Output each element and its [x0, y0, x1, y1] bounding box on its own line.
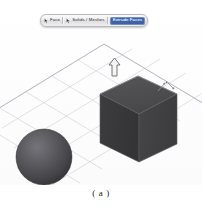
toolbar-item-face-label: Face — [50, 18, 60, 22]
3d-viewport[interactable]: Face Solids / Meshes Extrude Faces — [0, 2, 202, 185]
figure-container: Face Solids / Meshes Extrude Faces ( a ) — [0, 0, 202, 210]
toolbar-item-solids-meshes[interactable]: Solids / Meshes — [64, 15, 107, 26]
object-sphere[interactable] — [16, 129, 72, 185]
figure-caption: ( a ) — [0, 188, 202, 198]
sphere-body — [16, 129, 72, 185]
cursor-face-icon — [44, 18, 49, 24]
axis-marker-icon — [156, 80, 178, 94]
extrude-arrow-icon[interactable] — [107, 57, 122, 77]
cursor-solid-icon — [66, 18, 71, 24]
toolbar-item-extrude-faces[interactable]: Extrude Faces — [110, 17, 146, 25]
toolbar-separator-2 — [107, 17, 109, 24]
selection-filter-toolbar[interactable]: Face Solids / Meshes Extrude Faces — [40, 14, 148, 27]
toolbar-item-solids-meshes-label: Solids / Meshes — [72, 18, 105, 22]
toolbar-item-face[interactable]: Face — [42, 15, 62, 26]
toolbar-item-extrude-faces-label: Extrude Faces — [113, 18, 143, 22]
